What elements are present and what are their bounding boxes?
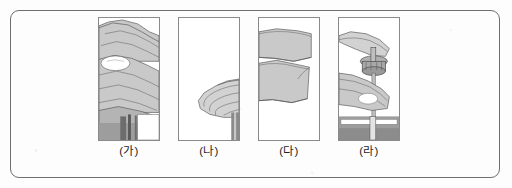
- figure-container: (가) (나): [0, 0, 512, 188]
- panel-d-artwork: [339, 18, 399, 140]
- illustration-panel-c: [258, 17, 320, 141]
- panel-a-artwork: [99, 18, 159, 140]
- panel-row: (가) (나): [10, 10, 500, 178]
- panel-label-c: (다): [258, 144, 320, 158]
- panel-label-b: (나): [178, 144, 240, 158]
- panel-label-d: (라): [338, 144, 400, 158]
- panel-b-artwork: [179, 18, 239, 140]
- panel-label-a: (가): [98, 144, 160, 158]
- illustration-panel-b: [178, 17, 240, 141]
- panel-c-artwork: [259, 18, 319, 140]
- illustration-panel-d: [338, 17, 400, 141]
- illustration-panel-a: [98, 17, 160, 141]
